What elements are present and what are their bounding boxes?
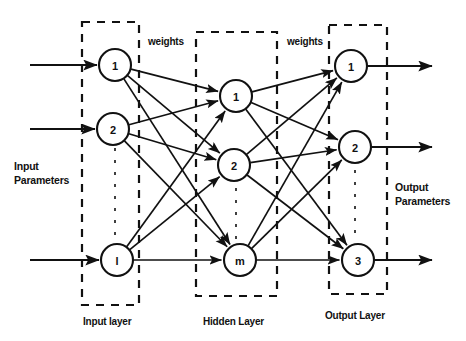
diagram-canvas: 12l12m123 Input Parameters Output Parame…	[0, 0, 466, 341]
edge-input2-hidden0	[127, 111, 225, 247]
node-label-input-2: 2	[110, 124, 116, 136]
edge-input0-hidden0	[131, 69, 218, 91]
node-label-hidden-2: 2	[231, 160, 237, 172]
hidden-layer-label: Hidden Layer	[203, 316, 264, 327]
hidden-to-output-edges	[246, 71, 347, 260]
neural-network-svg: 12l12m123	[0, 0, 466, 341]
output-layer-label: Output Layer	[325, 310, 385, 321]
node-label-output-1: 1	[348, 61, 354, 73]
node-label-hidden-1: 1	[233, 91, 239, 103]
input-parameters-label: Input Parameters	[14, 159, 69, 187]
node-label-input-1: 1	[112, 60, 118, 72]
output-parameters-line2: Parameters	[395, 194, 450, 208]
edge-input0-hidden1	[128, 76, 220, 153]
output-parameters-line1: Output	[395, 180, 450, 194]
node-label-input-3: l	[115, 255, 118, 267]
weights-label-input-hidden: weights	[148, 36, 184, 47]
node-label-output-3: 3	[355, 255, 361, 267]
input-parameters-line1: Input	[14, 159, 69, 173]
input-layer-label: Input layer	[83, 316, 131, 327]
weights-label-hidden-output: weights	[287, 36, 323, 47]
node-label-output-2: 2	[352, 142, 358, 154]
edge-hidden0-output0	[252, 71, 333, 92]
node-label-hidden-3: m	[235, 255, 245, 267]
edge-hidden2-output1	[252, 160, 342, 248]
edge-input2-hidden1	[130, 177, 220, 250]
output-parameters-label: Output Parameters	[395, 180, 450, 208]
edge-input1-hidden0	[129, 101, 218, 125]
input-parameters-line2: Parameters	[14, 173, 69, 187]
edge-hidden1-output1	[250, 150, 336, 163]
